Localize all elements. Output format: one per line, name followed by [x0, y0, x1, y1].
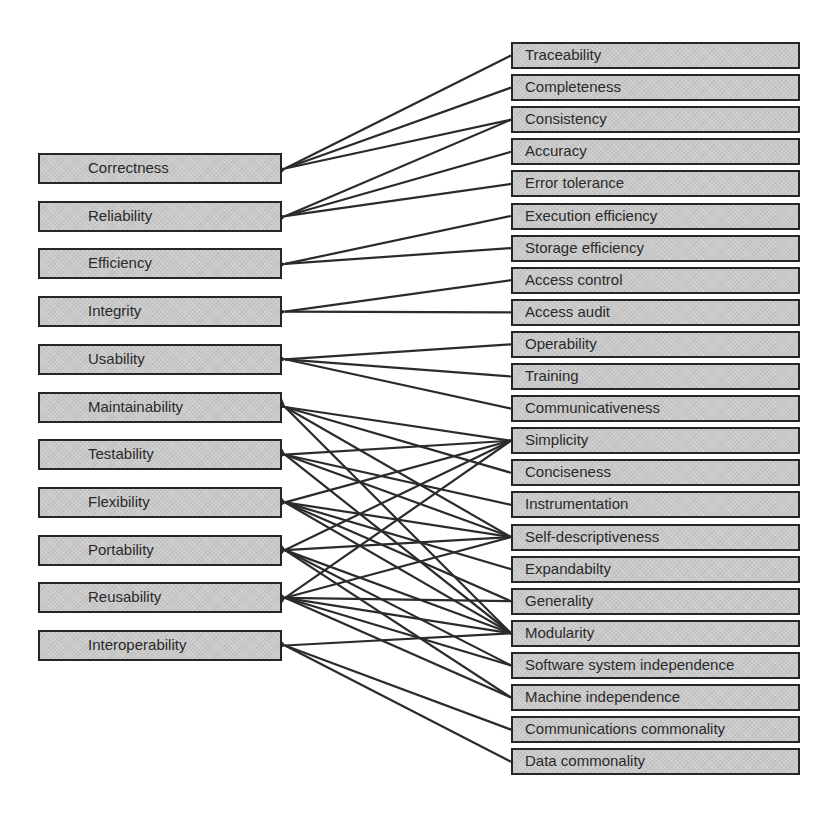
factor-box-maintainability: Maintainability	[38, 392, 282, 423]
arrow-modularity-to-reusability	[285, 598, 511, 634]
factor-box-efficiency: Efficiency	[38, 248, 282, 279]
arrow-training-to-usability	[285, 359, 511, 376]
arrow-expandabilty-to-flexibility	[285, 502, 511, 569]
criterion-box-training: Training	[511, 363, 800, 390]
arrow-communicativeness-to-usability	[285, 359, 511, 408]
criterion-box-completeness: Completeness	[511, 74, 800, 101]
arrow-operability-to-usability	[285, 344, 511, 359]
criterion-box-modularity: Modularity	[511, 620, 800, 647]
arrow-consistency-to-reliability	[285, 120, 511, 217]
arrow-data-commonality-to-interoperability	[285, 646, 511, 762]
factor-box-reusability: Reusability	[38, 582, 282, 613]
criterion-box-storage-efficiency: Storage efficiency	[511, 235, 800, 262]
arrow-simplicity-to-portability	[285, 441, 511, 550]
criterion-box-generality: Generality	[511, 588, 800, 615]
criterion-box-expandabilty: Expandabilty	[511, 556, 800, 583]
arrow-simplicity-to-testability	[285, 441, 511, 455]
criterion-box-traceability: Traceability	[511, 42, 800, 69]
arrow-modularity-to-portability	[285, 550, 511, 633]
criterion-box-self-descriptiveness: Self-descriptiveness	[511, 524, 800, 551]
criterion-box-communications-commonality: Communications commonality	[511, 716, 800, 743]
criterion-box-data-commonality: Data commonality	[511, 748, 800, 775]
criterion-box-instrumentation: Instrumentation	[511, 491, 800, 518]
criterion-box-access-control: Access control	[511, 267, 800, 294]
criterion-box-accuracy: Accuracy	[511, 138, 800, 165]
factor-box-flexibility: Flexibility	[38, 487, 282, 518]
arrow-access-control-to-integrity	[285, 280, 511, 311]
arrow-communications-commonality-to-interoperability	[285, 646, 511, 730]
arrow-machine-independence-to-portability	[285, 550, 511, 697]
criterion-box-consistency: Consistency	[511, 106, 800, 133]
factor-box-usability: Usability	[38, 344, 282, 375]
factor-box-integrity: Integrity	[38, 296, 282, 327]
criterion-box-conciseness: Conciseness	[511, 459, 800, 486]
arrow-modularity-to-interoperability	[285, 633, 511, 645]
criterion-box-machine-independence: Machine independence	[511, 684, 800, 711]
criterion-box-communicativeness: Communicativeness	[511, 395, 800, 422]
factor-box-portability: Portability	[38, 535, 282, 566]
arrow-simplicity-to-reusability	[285, 441, 511, 598]
quality-model-diagram: CorrectnessReliabilityEfficiencyIntegrit…	[0, 0, 840, 814]
criterion-box-software-system-independence: Software system independence	[511, 652, 800, 679]
arrow-self-descriptiveness-to-portability	[285, 537, 511, 550]
criterion-box-error-tolerance: Error tolerance	[511, 170, 800, 197]
arrow-traceability-to-correctness	[285, 56, 511, 169]
arrow-simplicity-to-maintainability	[285, 407, 511, 441]
criterion-box-execution-efficiency: Execution efficiency	[511, 203, 800, 230]
factor-box-testability: Testability	[38, 439, 282, 470]
criterion-box-simplicity: Simplicity	[511, 427, 800, 454]
factor-box-interoperability: Interoperability	[38, 630, 282, 661]
arrow-simplicity-to-flexibility	[285, 441, 511, 503]
factor-box-correctness: Correctness	[38, 153, 282, 184]
arrow-error-tolerance-to-reliability	[285, 184, 511, 216]
factor-box-reliability: Reliability	[38, 201, 282, 232]
criterion-box-access-audit: Access audit	[511, 299, 800, 326]
arrow-access-audit-to-integrity	[285, 312, 511, 313]
criterion-box-operability: Operability	[511, 331, 800, 358]
